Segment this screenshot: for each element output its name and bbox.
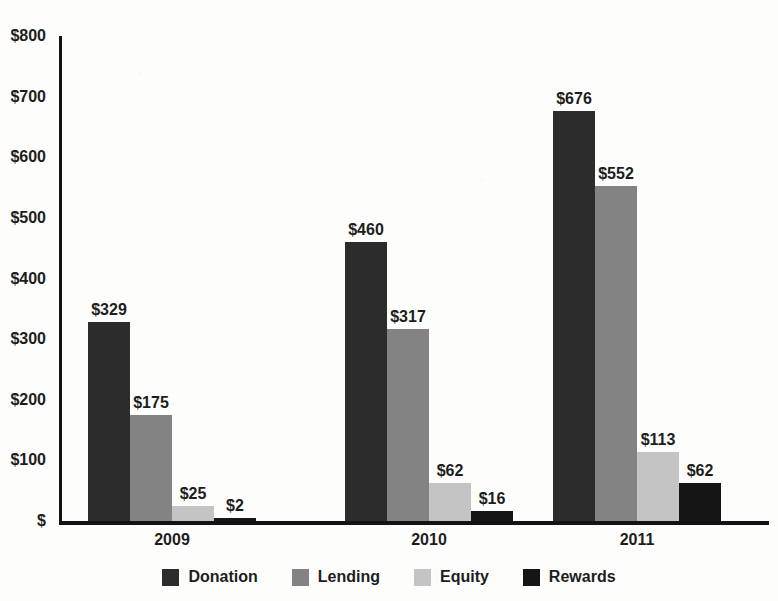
bar-chart-figure: $800$700$600$500$400$300$200$100$ $329$1…: [0, 0, 778, 601]
y-tick-label: $200: [0, 391, 46, 409]
bar-2009-lending[interactable]: $175: [130, 36, 172, 521]
legend-label: Donation: [188, 568, 257, 586]
bar-value-label: $62: [687, 462, 714, 480]
bar-value-label: $25: [180, 485, 207, 503]
bar-rect[interactable]: [637, 452, 679, 521]
bar-rect[interactable]: [214, 518, 256, 521]
x-axis-line: [59, 521, 769, 525]
legend-swatch-icon: [162, 569, 179, 586]
bar-rect[interactable]: [130, 415, 172, 521]
legend-swatch-icon: [292, 569, 309, 586]
x-label-2010: 2010: [369, 531, 489, 549]
legend-item-lending[interactable]: Lending: [292, 568, 380, 586]
bar-2010-donation[interactable]: $460: [345, 36, 387, 521]
bar-value-label: $113: [641, 431, 676, 449]
y-tick-label: $: [0, 512, 46, 530]
y-tick-label: $100: [0, 451, 46, 469]
y-tick-label: $700: [0, 88, 46, 106]
bar-group-2011: $676$552$113$62: [553, 36, 721, 521]
legend-swatch-icon: [414, 569, 431, 586]
bar-value-label: $329: [91, 301, 127, 319]
legend-label: Lending: [318, 568, 380, 586]
plot-area: $800$700$600$500$400$300$200$100$ $329$1…: [59, 36, 769, 521]
bar-rect[interactable]: [387, 329, 429, 521]
bar-2010-rewards[interactable]: $16: [471, 36, 513, 521]
legend-item-donation[interactable]: Donation: [162, 568, 257, 586]
bar-2009-rewards[interactable]: $2: [214, 36, 256, 521]
bar-group-2009: $329$175$25$2: [88, 36, 256, 521]
bar-rect[interactable]: [172, 506, 214, 521]
y-tick-label: $500: [0, 209, 46, 227]
bar-2011-lending[interactable]: $552: [595, 36, 637, 521]
bar-value-label: $676: [556, 90, 592, 108]
chart-title-cropped: [0, 0, 778, 12]
bar-rect[interactable]: [345, 242, 387, 521]
bar-value-label: $552: [598, 165, 634, 183]
bar-2010-equity[interactable]: $62: [429, 36, 471, 521]
bar-rect[interactable]: [88, 322, 130, 521]
y-tick-label: $600: [0, 148, 46, 166]
chart-legend: DonationLendingEquityRewards: [0, 568, 778, 586]
bar-2011-rewards[interactable]: $62: [679, 36, 721, 521]
bar-2011-donation[interactable]: $676: [553, 36, 595, 521]
legend-item-equity[interactable]: Equity: [414, 568, 489, 586]
bar-rect[interactable]: [471, 511, 513, 521]
legend-label: Rewards: [549, 568, 616, 586]
bar-rect[interactable]: [679, 483, 721, 521]
bar-2011-equity[interactable]: $113: [637, 36, 679, 521]
bar-value-label: $317: [390, 308, 426, 326]
y-tick-label: $300: [0, 330, 46, 348]
bar-2010-lending[interactable]: $317: [387, 36, 429, 521]
bar-2009-equity[interactable]: $25: [172, 36, 214, 521]
y-axis-line: [59, 36, 62, 521]
y-tick-label: $400: [0, 270, 46, 288]
bar-group-2010: $460$317$62$16: [345, 36, 513, 521]
x-label-2011: 2011: [577, 531, 697, 549]
legend-item-rewards[interactable]: Rewards: [523, 568, 616, 586]
bar-value-label: $2: [226, 497, 244, 515]
bar-rect[interactable]: [429, 483, 471, 521]
y-tick-label: $800: [0, 27, 46, 45]
bar-value-label: $62: [437, 462, 464, 480]
x-label-2009: 2009: [112, 531, 232, 549]
bar-value-label: $460: [348, 221, 384, 239]
bar-rect[interactable]: [595, 186, 637, 521]
bar-value-label: $16: [479, 490, 506, 508]
bar-rect[interactable]: [553, 111, 595, 521]
legend-swatch-icon: [523, 569, 540, 586]
bar-value-label: $175: [133, 394, 169, 412]
legend-label: Equity: [440, 568, 489, 586]
bar-2009-donation[interactable]: $329: [88, 36, 130, 521]
